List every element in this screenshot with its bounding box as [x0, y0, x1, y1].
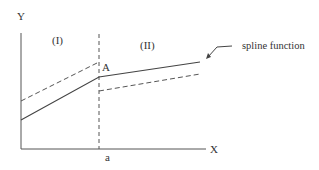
region-1-label: (I)	[52, 34, 63, 47]
spline-function-line	[21, 62, 200, 120]
x-axis-label: X	[210, 143, 218, 155]
region-2-label: (II)	[140, 39, 155, 52]
x-tick-label: a	[105, 151, 110, 163]
spline-diagram: Y X a (I) (II) A spline function	[0, 0, 319, 170]
region-1-dashed-line	[21, 62, 99, 101]
annotation-leader-line	[208, 46, 232, 57]
point-a-label: A	[102, 61, 110, 73]
spline-function-label: spline function	[242, 40, 305, 51]
y-axis-label: Y	[17, 10, 25, 22]
diagram-svg: Y X a (I) (II) A spline function	[0, 0, 319, 170]
region-2-dashed-line	[99, 74, 200, 91]
